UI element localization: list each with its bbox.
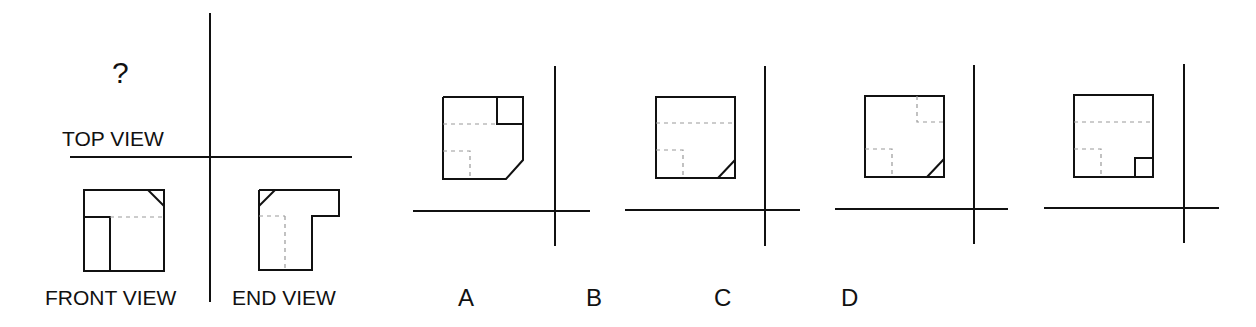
option-d-drawing bbox=[1044, 64, 1219, 243]
option-b-drawing bbox=[625, 66, 800, 246]
front-view-label: FRONT VIEW bbox=[45, 286, 176, 310]
end-view-drawing bbox=[259, 190, 339, 270]
orthographic-diagram bbox=[0, 0, 1256, 327]
option-c-drawing bbox=[835, 65, 1008, 244]
unknown-top-view-marker: ? bbox=[112, 56, 129, 90]
option-a-drawing bbox=[413, 66, 590, 246]
option-b-label[interactable]: B bbox=[586, 284, 602, 312]
top-view-label: TOP VIEW bbox=[62, 127, 164, 151]
option-a-label[interactable]: A bbox=[458, 284, 474, 312]
option-d-label[interactable]: D bbox=[841, 284, 858, 312]
front-view-drawing bbox=[84, 190, 164, 271]
end-view-label: END VIEW bbox=[232, 286, 336, 310]
option-c-label[interactable]: C bbox=[714, 284, 731, 312]
